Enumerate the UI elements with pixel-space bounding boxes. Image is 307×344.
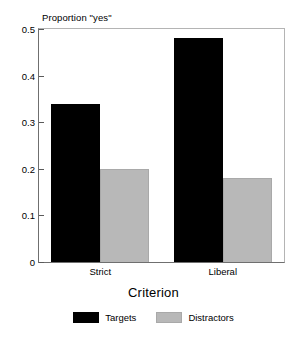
plot-inner: 00.10.20.30.40.5 [39,29,284,262]
y-axis-tick-label: 0.5 [22,24,35,35]
chart-legend: TargetsDistractors [0,312,307,323]
y-axis-tick-mark [39,215,44,216]
y-axis-label: Proportion "yes" [42,12,112,23]
y-axis-tick-mark [39,29,44,30]
bar-liberal-distractors [223,178,272,262]
legend-item-targets[interactable]: Targets [73,312,136,323]
y-axis-tick-label: 0 [30,257,35,268]
y-axis-tick-label: 0.4 [22,70,35,81]
x-axis-title: Criterion [0,285,307,300]
y-axis-tick-mark [39,76,44,77]
x-axis-label-liberal: Liberal [208,266,237,277]
legend-item-distractors[interactable]: Distractors [156,312,233,323]
black-swatch [73,312,99,323]
legend-label: Distractors [188,312,233,323]
y-axis-tick-mark [39,122,44,123]
bar-strict-targets [51,104,100,262]
bar-liberal-targets [174,38,223,262]
y-axis-tick-mark [39,262,44,263]
y-axis-tick-mark [39,169,44,170]
y-axis-tick-label: 0.3 [22,117,35,128]
y-axis-tick-label: 0.2 [22,163,35,174]
legend-label: Targets [105,312,136,323]
y-axis-tick-label: 0.1 [22,210,35,221]
x-axis-label-strict: Strict [89,266,111,277]
gray-swatch [156,312,182,323]
bar-strict-distractors [100,169,149,262]
plot-area: 00.10.20.30.40.5 [38,28,285,263]
bar-chart-figure: Proportion "yes" 00.10.20.30.40.5 Strict… [0,0,307,344]
